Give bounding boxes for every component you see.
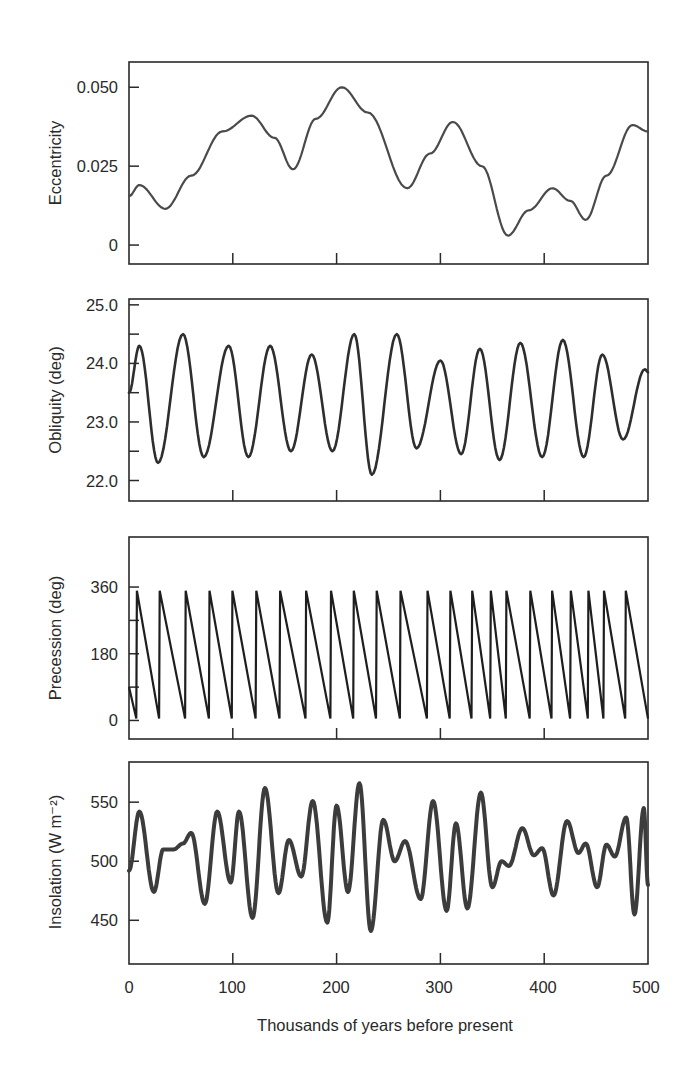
- y-tick-label: 500: [90, 852, 118, 870]
- y-tick-label: 360: [90, 578, 118, 596]
- precession-panel: 0180360 Precession (deg): [46, 537, 648, 739]
- y-tick-label: 25.0: [86, 296, 118, 314]
- insolation-panel: 450500550 Insolation (W m⁻²): [46, 762, 648, 964]
- x-tick-label-500: 500: [632, 978, 660, 996]
- insolation-x-ticks: [233, 953, 544, 964]
- eccentricity-y-axis-title: Eccentricity: [46, 120, 64, 205]
- eccentricity-panel: 00.0250.050 Eccentricity: [46, 62, 648, 264]
- obliquity-x-ticks: [233, 490, 544, 501]
- x-tick-label-300: 300: [425, 978, 453, 996]
- x-tick-label-0: 0: [124, 978, 133, 996]
- y-tick-label: 0.050: [77, 78, 118, 96]
- obliquity-plot-frame: [129, 299, 648, 501]
- insolation-y-axis-title: Insolation (W m⁻²): [46, 795, 64, 930]
- eccentricity-plot-frame: [129, 62, 648, 264]
- x-axis-title: Thousands of years before present: [257, 1016, 513, 1034]
- obliquity-line: [129, 334, 648, 475]
- precession-y-ticks: 0180360: [90, 578, 139, 729]
- y-tick-label: 180: [90, 645, 118, 663]
- y-tick-label: 0: [109, 711, 118, 729]
- x-tick-label-400: 400: [529, 978, 557, 996]
- insolation-plot-frame: [129, 762, 648, 964]
- y-tick-label: 0.025: [77, 157, 118, 175]
- eccentricity-line: [129, 87, 648, 235]
- y-tick-label: 450: [90, 911, 118, 929]
- obliquity-y-ticks: 22.023.024.025.0: [86, 296, 139, 490]
- orbital-parameters-figure: 00.0250.050 Eccentricity 22.023.024.025.…: [0, 0, 682, 1078]
- insolation-line: [129, 783, 648, 931]
- precession-y-axis-title: Precession (deg): [46, 576, 64, 701]
- eccentricity-x-ticks: [233, 253, 544, 264]
- x-axis-tick-labels: 0 100 200 300 400 500: [124, 978, 659, 996]
- x-tick-label-200: 200: [322, 978, 350, 996]
- y-tick-label: 22.0: [86, 472, 118, 490]
- y-tick-label: 0: [109, 236, 118, 254]
- x-tick-label-100: 100: [218, 978, 246, 996]
- precession-line: [129, 591, 648, 719]
- obliquity-y-axis-title: Obliquity (deg): [46, 346, 64, 453]
- y-tick-label: 24.0: [86, 354, 118, 372]
- y-tick-label: 550: [90, 793, 118, 811]
- precession-x-ticks: [233, 728, 544, 739]
- obliquity-panel: 22.023.024.025.0 Obliquity (deg): [46, 296, 648, 501]
- y-tick-label: 23.0: [86, 413, 118, 431]
